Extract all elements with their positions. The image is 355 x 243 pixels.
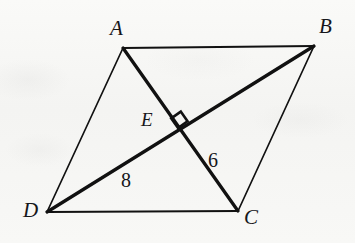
diagonal-DB xyxy=(47,46,314,212)
geometry-figure: A B C D E 8 6 xyxy=(0,0,355,243)
vertex-label-B: B xyxy=(319,16,332,37)
measure-label-DE: 8 xyxy=(121,170,131,190)
point-label-E: E xyxy=(141,110,153,129)
measure-label-EC: 6 xyxy=(208,150,218,170)
side-CD xyxy=(47,211,238,212)
side-AB xyxy=(123,46,314,48)
vertex-label-D: D xyxy=(23,200,38,221)
diagram-canvas xyxy=(0,0,355,243)
vertex-label-C: C xyxy=(244,207,258,228)
vertex-label-A: A xyxy=(110,18,123,39)
